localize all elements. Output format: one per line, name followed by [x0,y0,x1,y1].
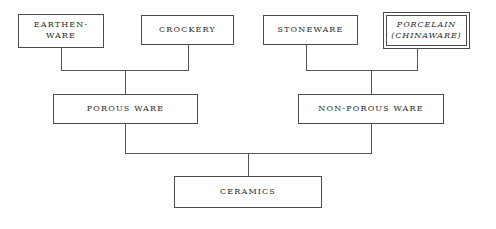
ceramics-classification-diagram: EARTHEN- WARE CROCKERY STONEWARE PORCELA… [0,0,496,229]
node-porcelain: PORCELAIN (CHINAWARE) [383,12,470,49]
node-porcelain-label: PORCELAIN (CHINAWARE) [391,20,461,41]
node-stoneware-label: STONEWARE [277,25,343,36]
node-earthenware: EARTHEN- WARE [18,14,104,48]
edge-non-porous-ware-stem [371,70,372,94]
node-crockery: CROCKERY [141,15,234,45]
edge-crockery-drop [188,45,189,70]
node-ceramics: CERAMICS [174,176,322,208]
node-porous-ware-label: POROUS WARE [87,104,164,115]
node-stoneware: STONEWARE [263,15,358,45]
node-ceramics-label: CERAMICS [220,187,276,198]
edge-non-porous-ware-drop [371,124,372,153]
node-non-porous-ware-label: NON-POROUS WARE [318,104,423,115]
edge-porous-ware-stem [125,70,126,94]
node-crockery-label: CROCKERY [159,25,216,36]
edge-right-group-bus [306,70,418,71]
node-non-porous-ware: NON-POROUS WARE [298,94,444,124]
edge-earthenware-drop [61,48,62,70]
node-porous-ware: POROUS WARE [53,94,198,124]
edge-porcelain-drop [417,49,418,70]
node-earthenware-label: EARTHEN- WARE [34,20,89,41]
edge-porous-ware-drop [125,124,126,153]
edge-stoneware-drop [306,45,307,70]
edge-ceramics-stem [248,153,249,176]
